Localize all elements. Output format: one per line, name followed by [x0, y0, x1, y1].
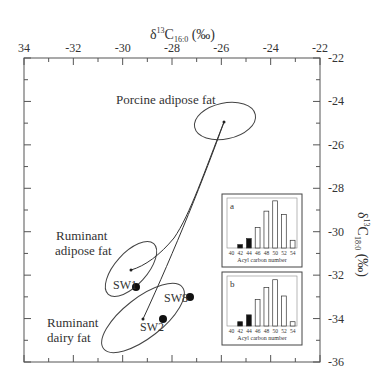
sample-label-sw1: SW1 — [113, 278, 137, 292]
label-ruminant-dairy-line2: dairy fat — [47, 330, 91, 345]
y-tick-label: -32 — [328, 268, 344, 282]
inset-bar — [238, 322, 243, 326]
x-axis-title: δ13C16:0 (‰) — [150, 26, 215, 44]
label-ruminant-adipose-line1: Ruminant — [56, 228, 108, 243]
inset-bar — [246, 239, 251, 248]
inset-bar — [281, 215, 286, 248]
inset-tick-label: 48 — [264, 250, 270, 256]
x-tick-label: -22 — [312, 41, 328, 55]
inset-bar — [273, 280, 278, 326]
inset-label: a — [230, 201, 234, 211]
inset-tick-label: 50 — [272, 328, 278, 334]
inset-bar — [246, 315, 251, 326]
x-tick-label: -32 — [65, 41, 81, 55]
isotope-chart: δ13C16:0 (‰) 34-32-30-28-26-24-22 -22-24… — [0, 0, 387, 386]
inset-tick-label: 46 — [255, 328, 261, 334]
label-ruminant-dairy-line1: Ruminant — [47, 315, 99, 330]
inset-x-axis-title: Acyl carbon number — [237, 335, 286, 341]
y-tick-label: -34 — [328, 312, 344, 326]
x-tick-label: -28 — [164, 41, 180, 55]
inset-tick-label: 44 — [246, 328, 252, 334]
inset-tick-label: 52 — [281, 328, 287, 334]
inset-tick-label: 42 — [237, 250, 243, 256]
inset-bar — [255, 299, 260, 326]
inset-label: b — [230, 279, 235, 289]
y-tick-label: -24 — [328, 94, 344, 108]
inset-tick-label: 50 — [272, 250, 278, 256]
sample-label-sw8: SW8 — [164, 291, 188, 305]
inset-x-axis-title: Acyl carbon number — [237, 257, 286, 263]
x-tick-label: -30 — [115, 41, 131, 55]
y-tick-label: -30 — [328, 225, 344, 239]
inset-bar — [264, 287, 269, 326]
y-tick-label: -26 — [328, 138, 344, 152]
y-axis-title: δ13C18:0 (‰) — [353, 212, 371, 277]
inset-chart-b: b4042444648505254Acyl carbon number — [222, 272, 302, 345]
label-porcine-adipose-fat: Porcine adipose fat — [116, 92, 216, 107]
inset-tick-label: 40 — [229, 250, 235, 256]
y-tick-label: -36 — [328, 355, 344, 369]
inset-tick-label: 40 — [229, 328, 235, 334]
inset-tick-label: 54 — [290, 328, 296, 334]
y-tick-label: -22 — [328, 51, 344, 65]
inset-chart-a: a4042444648505254Acyl carbon number — [222, 194, 302, 267]
x-tick-label: -26 — [213, 41, 229, 55]
inset-tick-label: 42 — [237, 328, 243, 334]
inset-tick-label: 52 — [281, 250, 287, 256]
inset-tick-label: 46 — [255, 250, 261, 256]
inset-bar — [238, 245, 243, 248]
y-tick-label: -28 — [328, 181, 344, 195]
inset-tick-label: 44 — [246, 250, 252, 256]
x-tick-label: -24 — [263, 41, 279, 55]
x-tick-label: 34 — [18, 41, 30, 55]
inset-bar — [290, 240, 295, 248]
inset-bar — [290, 322, 295, 326]
inset-bar — [281, 296, 286, 326]
porcine-centroid — [223, 121, 226, 124]
y-tick-labels: -22-24-26-28-30-32-34-36 — [328, 51, 344, 369]
sample-label-sw2: SW2 — [140, 320, 164, 334]
inset-bar — [273, 201, 278, 248]
ruminant-adipose-centroid — [130, 269, 133, 272]
inset-tick-label: 48 — [264, 328, 270, 334]
label-ruminant-adipose-line2: adipose fat — [55, 243, 112, 258]
inset-bar — [255, 227, 260, 248]
inset-bar — [264, 211, 269, 248]
mixing-line-porcine-ruminant-adipose — [131, 122, 224, 270]
inset-tick-label: 54 — [290, 250, 296, 256]
x-tick-labels: 34-32-30-28-26-24-22 — [18, 41, 328, 55]
